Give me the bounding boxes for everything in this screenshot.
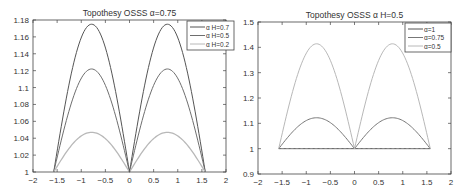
figure-canvas: Topothesy OSSS α=0.75−2−1.5−1−0.500.511.… xyxy=(0,0,464,195)
y-tick-label: 1.16 xyxy=(13,33,29,42)
x-tick-label: −1 xyxy=(77,176,87,185)
legend-entry: α=0.5 xyxy=(424,43,441,50)
legend-entry: α H=0.7 xyxy=(206,24,229,31)
series-line xyxy=(54,24,206,172)
x-tick-label: 1 xyxy=(401,178,406,187)
x-tick-label: 0.5 xyxy=(373,178,385,187)
series-line xyxy=(279,44,431,149)
figure-container: Topothesy OSSS α=0.75−2−1.5−1−0.500.511.… xyxy=(0,0,464,195)
legend: α H=0.7α H=0.5α H=0.2 xyxy=(187,21,234,50)
x-tick-label: 1 xyxy=(176,176,181,185)
x-tick-label: −2 xyxy=(28,176,38,185)
x-tick-label: −1.5 xyxy=(274,178,290,187)
y-tick-label: 1.2 xyxy=(243,94,255,103)
x-tick-label: −1.5 xyxy=(49,176,65,185)
y-tick-label: 1.14 xyxy=(13,50,29,59)
series-line xyxy=(54,132,206,172)
x-tick-label: −2 xyxy=(253,178,263,187)
legend-entry: α H=0.2 xyxy=(206,41,229,48)
chart-title: Topothesy OSSS α=0.75 xyxy=(83,8,177,18)
legend: α=1α=0.75α=0.5 xyxy=(405,23,451,52)
x-tick-label: 1.5 xyxy=(196,176,208,185)
y-tick-label: 1.08 xyxy=(13,100,29,109)
legend-entry: α=1 xyxy=(424,26,436,33)
x-tick-label: 0.5 xyxy=(148,176,160,185)
y-tick-label: 1.12 xyxy=(13,67,29,76)
x-tick-label: 1.5 xyxy=(421,178,433,187)
y-tick-label: 1.02 xyxy=(13,151,29,160)
chart-title: Topothesy OSSS α H=0.5 xyxy=(306,10,404,20)
y-tick-label: 1 xyxy=(25,168,30,177)
y-tick-label: 0.9 xyxy=(243,170,255,179)
y-tick-label: 1.3 xyxy=(243,69,255,78)
x-tick-label: −1 xyxy=(302,178,312,187)
y-tick-label: 1.1 xyxy=(243,119,255,128)
legend-entry: α H=0.5 xyxy=(206,32,229,39)
y-tick-label: 1.06 xyxy=(13,117,29,126)
y-tick-label: 1.4 xyxy=(243,43,255,52)
y-tick-label: 1.18 xyxy=(13,16,29,25)
chart-2: Topothesy OSSS α H=0.5−2−1.5−1−0.500.511… xyxy=(243,10,454,187)
chart-1: Topothesy OSSS α=0.75−2−1.5−1−0.500.511.… xyxy=(13,8,234,185)
series-line xyxy=(54,69,206,172)
x-tick-label: 0 xyxy=(127,176,132,185)
x-tick-label: 2 xyxy=(224,176,229,185)
legend-entry: α=0.75 xyxy=(424,34,445,41)
x-tick-label: 0 xyxy=(352,178,357,187)
x-tick-label: −0.5 xyxy=(97,176,113,185)
y-tick-label: 1.5 xyxy=(243,18,255,27)
x-tick-label: −0.5 xyxy=(322,178,338,187)
y-tick-label: 1.04 xyxy=(13,134,29,143)
y-tick-label: 1 xyxy=(250,145,255,154)
series-line xyxy=(279,118,431,149)
x-tick-label: 2 xyxy=(449,178,454,187)
y-tick-label: 1.1 xyxy=(18,84,30,93)
